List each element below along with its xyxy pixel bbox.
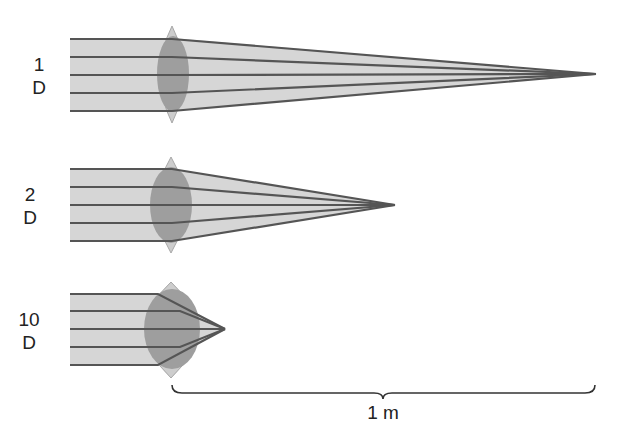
power-unit-1d: D bbox=[32, 77, 46, 98]
lens-row-2d: 2 D bbox=[23, 157, 395, 253]
power-number-1d: 1 bbox=[34, 54, 45, 75]
power-number-10d: 10 bbox=[18, 309, 39, 330]
lens-row-10d: 10 D bbox=[18, 282, 225, 378]
diopter-diagram: 1 D 2 D 10 D 1 m bbox=[0, 0, 625, 438]
scale-label: 1 m bbox=[367, 402, 399, 423]
power-unit-2d: D bbox=[23, 207, 37, 228]
lens-row-1d: 1 D bbox=[32, 26, 596, 123]
scale-bracket: 1 m bbox=[172, 385, 595, 423]
power-unit-10d: D bbox=[22, 332, 36, 353]
power-number-2d: 2 bbox=[25, 184, 36, 205]
brace-icon bbox=[172, 385, 595, 399]
